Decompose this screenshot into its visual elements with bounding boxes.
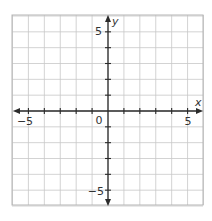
coordinate-plane: x y 0 −5 5 5 −5 [0,0,212,221]
x-axis-left-arrow-icon [13,108,20,114]
origin-label: 0 [96,114,103,127]
y-tick-label-pos5: 5 [95,25,102,38]
x-tick-label-neg5: −5 [17,115,33,128]
x-axis-label: x [194,96,202,109]
x-tick-label-pos5: 5 [185,115,192,128]
y-tick-label-neg5: −5 [88,185,104,198]
y-axis-label: y [111,15,119,28]
